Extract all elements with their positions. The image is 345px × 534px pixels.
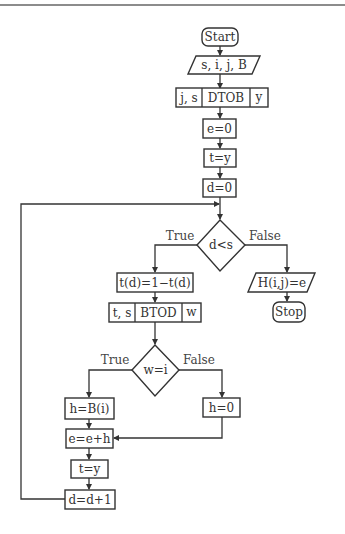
flip-label: t(d)=1−t(d) <box>119 276 190 290</box>
dinc-node: d=d+1 <box>65 490 115 509</box>
stop-node: Stop <box>273 302 305 322</box>
input-node: s, i, j, B <box>188 56 260 74</box>
e0-node: e=0 <box>203 119 236 138</box>
stop-label: Stop <box>275 305 303 319</box>
ty1-node: t=y <box>204 149 236 167</box>
weqi-false-label: False <box>183 353 215 367</box>
dtob-output: y <box>255 90 263 104</box>
start-label: Start <box>205 30 236 44</box>
input-label: s, i, j, B <box>201 58 247 72</box>
dlts-label: d<s <box>209 238 233 252</box>
flip-node: t(d)=1−t(d) <box>117 273 193 292</box>
eeh-label: e=e+h <box>68 432 110 446</box>
eeh-node: e=e+h <box>66 429 113 448</box>
btod-inputs: t, s <box>113 306 132 320</box>
h0-label: h=0 <box>209 401 234 415</box>
ty2-label: t=y <box>79 462 101 476</box>
dlts-decision: d<s <box>197 220 245 271</box>
dtob-label: DTOB <box>208 91 244 105</box>
btod-label: BTOD <box>140 306 176 320</box>
btod-node: t, s BTOD w <box>109 303 201 322</box>
dlts-true-label: True <box>166 229 195 243</box>
output-node: H(i,j)=e <box>248 273 315 292</box>
ty1-label: t=y <box>209 151 231 165</box>
ty2-node: t=y <box>71 460 108 478</box>
e0-label: e=0 <box>207 122 232 136</box>
hbi-node: h=B(i) <box>65 398 114 419</box>
dtob-inputs: j, s <box>178 91 198 105</box>
d0-node: d=0 <box>203 179 236 197</box>
dlts-false-label: False <box>249 229 281 243</box>
flowchart: Start s, i, j, B j, s DTOB y e=0 t=y d=0… <box>0 0 345 534</box>
h0-node: h=0 <box>203 398 240 417</box>
btod-output: w <box>186 305 197 319</box>
d0-label: d=0 <box>207 181 232 195</box>
dinc-label: d=d+1 <box>68 493 111 507</box>
weqi-true-label: True <box>101 353 130 367</box>
hbi-label: h=B(i) <box>70 402 110 416</box>
output-label: H(i,j)=e <box>258 276 306 290</box>
dtob-node: j, s DTOB y <box>176 88 268 107</box>
start-node: Start <box>202 28 238 46</box>
weqi-label: w=i <box>143 363 167 377</box>
weqi-decision: w=i <box>132 345 179 396</box>
